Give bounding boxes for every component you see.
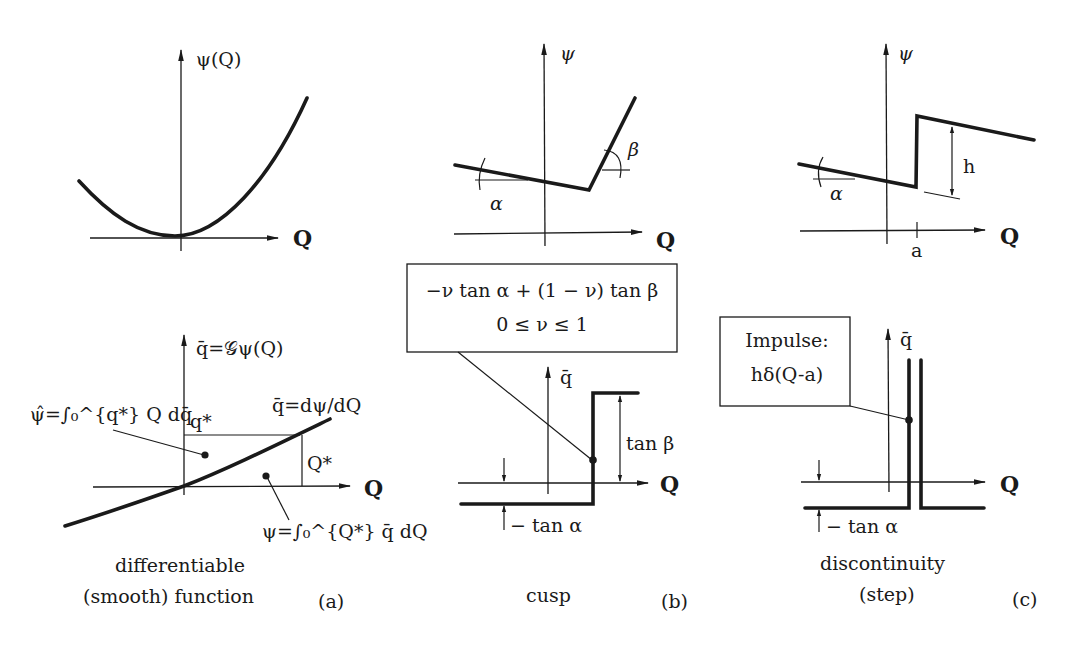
impulse-right-branch — [921, 360, 984, 508]
y-axis-label: q̄ — [900, 328, 912, 350]
x-axis-label: Q — [660, 471, 679, 497]
caption-line1: discontinuity — [820, 552, 945, 574]
callout-line1: Impulse: — [745, 329, 828, 351]
callout-line1: −ν tan α + (1 − ν) tan β — [426, 279, 658, 301]
caption-line2: (smooth) function — [83, 585, 254, 607]
primal-area-dot — [262, 472, 269, 479]
derivative-curve-label: q̄=dψ/dQ — [272, 394, 361, 416]
smooth-convex-curve — [79, 98, 307, 236]
x-axis-label: Q — [364, 475, 383, 501]
conjugate-area-dot — [201, 451, 208, 458]
y-axis-label: q̄=𝒢ψ(Q) — [196, 337, 283, 359]
callout-box — [407, 264, 677, 352]
panel-c-callout: Impulse: hδ(Q-a) — [720, 317, 913, 424]
angle-alpha-label: α — [490, 192, 503, 214]
primal-area-leader — [267, 477, 289, 520]
caption-line2: (step) — [859, 583, 915, 605]
x-axis-label: Q — [1000, 471, 1019, 497]
conjugate-area-label: ψ̂=∫₀^{q*} Q dq̄ — [30, 403, 192, 425]
h-label: h — [963, 155, 975, 177]
q-star-label: q* — [190, 410, 212, 432]
panel-tag: (c) — [1012, 588, 1037, 610]
x-axis — [454, 232, 642, 234]
panel-b-top-graph: ψ Q α β — [454, 42, 675, 253]
callout-line2: hδ(Q-a) — [751, 363, 824, 385]
y-axis-label: ψ(Q) — [196, 48, 241, 70]
panel-tag: (a) — [318, 590, 344, 612]
x-axis — [93, 486, 350, 487]
panel-b: ψ Q α β −ν tan α + (1 − ν) tan β 0 ≤ ν ≤… — [407, 42, 688, 612]
x-axis-label: Q — [1000, 223, 1019, 249]
x-axis — [800, 230, 985, 231]
caption: cusp — [526, 584, 571, 606]
conjugate-area-leader — [113, 430, 204, 455]
callout-line2: 0 ≤ ν ≤ 1 — [496, 313, 588, 335]
minus-tan-alpha-label: − tan α — [510, 514, 582, 536]
figure-canvas: ψ(Q) Q q̄ q̄=𝒢ψ(Q) Q q* Q* q̄=dψ/dQ ψ̂=∫… — [0, 0, 1087, 646]
panel-c-top-graph: ψ Q a α h — [799, 42, 1034, 261]
angle-beta-label: β — [627, 138, 639, 160]
angle-alpha-label: α — [830, 182, 843, 204]
panel-b-bottom-graph: q̄ Q tan β − tan α — [458, 366, 679, 536]
alpha-arc — [479, 158, 485, 190]
caption-line1: differentiable — [115, 554, 245, 576]
y-axis — [888, 329, 889, 492]
Q-star-label: Q* — [307, 452, 333, 474]
y-axis-label: ψ — [898, 42, 914, 64]
x-axis-label: Q — [293, 225, 312, 251]
x-axis-label: Q — [656, 227, 675, 253]
primal-area-label: ψ=∫₀^{Q*} q̄ dQ — [262, 520, 428, 542]
h-extension-line — [924, 192, 960, 199]
panel-a-top-graph: ψ(Q) Q — [79, 48, 312, 251]
tan-beta-label: tan β — [626, 432, 674, 454]
y-axis-label: q̄ — [560, 366, 572, 388]
panel-a: ψ(Q) Q q̄ q̄=𝒢ψ(Q) Q q* Q* q̄=dψ/dQ ψ̂=∫… — [30, 48, 428, 612]
step-derivative-curve — [461, 393, 638, 504]
step-curve — [799, 116, 1034, 187]
minus-tan-alpha-label: − tan α — [826, 515, 898, 537]
callout-leader — [850, 406, 909, 420]
panel-a-bottom-graph: q̄ q̄=𝒢ψ(Q) Q q* Q* q̄=dψ/dQ ψ̂=∫₀^{q*} … — [30, 335, 428, 542]
panel-tag: (b) — [661, 590, 688, 612]
y-axis — [886, 44, 887, 244]
y-axis-label: ψ — [560, 42, 576, 64]
alpha-arc — [818, 157, 823, 187]
y-axis — [544, 44, 545, 246]
panel-c: ψ Q a α h Impulse: hδ(Q-a) — [720, 42, 1037, 610]
tick-a-label: a — [911, 239, 922, 261]
